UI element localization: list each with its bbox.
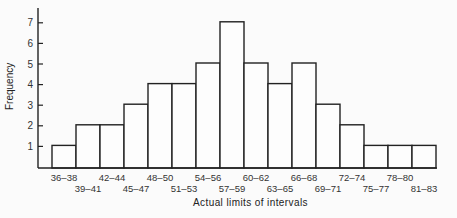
x-tick-label: 81–83	[411, 183, 437, 194]
y-tick-label: 5	[27, 59, 33, 70]
y-tick-label: 4	[27, 79, 33, 90]
histogram-bar: 78–80: 1	[388, 145, 412, 168]
x-tick-label: 54–56	[195, 172, 221, 183]
x-tick-label: 63–65	[267, 183, 293, 194]
x-axis-label: Actual limits of intervals	[0, 197, 457, 208]
x-tick-label: 42–44	[99, 172, 125, 183]
histogram-bar: 51–53: 4	[172, 84, 196, 168]
y-tick-label: 6	[27, 38, 33, 49]
histogram-bar: 42–44: 2	[100, 125, 124, 168]
x-tick-label: 60–62	[243, 172, 269, 183]
histogram-bars: 36–38: 139–41: 242–44: 245–47: 348–50: 4…	[52, 22, 436, 168]
histogram-bar: 72–74: 2	[340, 125, 364, 168]
x-tick-label: 69–71	[315, 183, 341, 194]
histogram-bar: 39–41: 2	[76, 125, 100, 168]
histogram-bar: 54–56: 5	[196, 63, 220, 168]
histogram-bar: 60–62: 5	[244, 63, 268, 168]
y-axis-label: Frequency	[4, 63, 15, 110]
y-axis-ticks: 1234567	[27, 17, 43, 152]
histogram-bar: 69–71: 3	[316, 104, 340, 168]
y-tick-label: 1	[27, 141, 33, 152]
x-tick-label: 51–53	[171, 183, 197, 194]
histogram: 36–38: 139–41: 242–44: 245–47: 348–50: 4…	[0, 0, 457, 218]
x-tick-label: 66–68	[291, 172, 317, 183]
histogram-bar: 36–38: 1	[52, 145, 76, 168]
y-tick-label: 3	[27, 100, 33, 111]
histogram-bar: 57–59: 7	[220, 22, 244, 168]
x-tick-label: 57–59	[219, 183, 245, 194]
y-tick-label: 7	[27, 17, 33, 28]
y-tick-label: 2	[27, 120, 33, 131]
histogram-bar: 66–68: 5	[292, 63, 316, 168]
histogram-bar: 48–50: 4	[148, 84, 172, 168]
x-tick-label: 72–74	[339, 172, 365, 183]
x-tick-label: 75–77	[363, 183, 389, 194]
histogram-bar: 75–77: 1	[364, 145, 388, 168]
x-tick-label: 78–80	[387, 172, 413, 183]
histogram-bar: 81–83: 1	[412, 145, 436, 168]
x-tick-label: 39–41	[75, 183, 101, 194]
histogram-bar: 63–65: 4	[268, 84, 292, 168]
x-axis-tick-labels: 36–3839–4142–4445–4748–5051–5354–5657–59…	[51, 172, 437, 194]
x-tick-label: 36–38	[51, 172, 77, 183]
x-tick-label: 48–50	[147, 172, 173, 183]
histogram-bar: 45–47: 3	[124, 104, 148, 168]
x-tick-label: 45–47	[123, 183, 149, 194]
